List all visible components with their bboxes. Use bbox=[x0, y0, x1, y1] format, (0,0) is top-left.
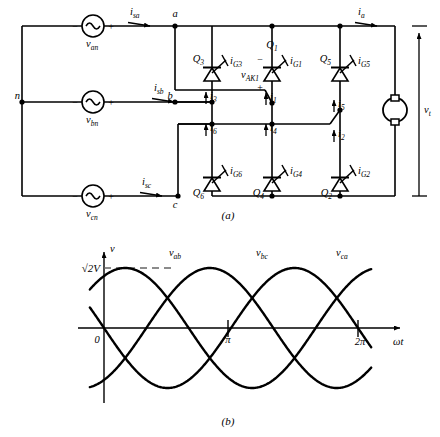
source-a-voltage-label: van bbox=[86, 38, 98, 52]
dot-node-b bbox=[172, 99, 177, 104]
dot-node-a bbox=[172, 23, 177, 28]
terminal-voltage-label: vt bbox=[424, 104, 432, 118]
panel-a-caption: (a) bbox=[222, 209, 235, 222]
thyristor-q6-gate-tick bbox=[222, 165, 228, 176]
dc-motor bbox=[383, 95, 407, 125]
dot-rail-top-right bbox=[337, 23, 342, 28]
thyristor-q6[interactable] bbox=[203, 165, 228, 191]
output-current-label-ia: ia bbox=[358, 6, 365, 20]
thyristor-q5[interactable] bbox=[331, 55, 356, 81]
source-a-plus: + bbox=[108, 21, 114, 32]
panel-b-caption: (b) bbox=[222, 415, 235, 428]
thyristor-q2-label: Q2 bbox=[321, 187, 333, 201]
dot-rail-top-mid bbox=[269, 23, 274, 28]
source-c-minus: − bbox=[72, 191, 78, 202]
gate-current-label-ig6: iG6 bbox=[230, 165, 242, 179]
gate-current-label-ig1: iG1 bbox=[290, 55, 302, 69]
thyristor-q4-triangle bbox=[264, 178, 280, 191]
thyristor-q1-gate-tick bbox=[282, 55, 288, 66]
figure-root: − + − + − + van vbn vcn isa bbox=[0, 0, 440, 437]
thyristor-q6-triangle bbox=[204, 178, 220, 191]
thyristor-q5-label: Q5 bbox=[320, 53, 332, 67]
source-wiring bbox=[22, 26, 212, 196]
figure-svg: − + − + − + van vbn vcn isa bbox=[0, 0, 440, 437]
thyristor-q2[interactable] bbox=[331, 165, 356, 191]
source-b-voltage-label: vbn bbox=[86, 114, 98, 128]
phase-c-feed bbox=[178, 110, 340, 196]
series-label-vca: vca bbox=[336, 247, 348, 261]
thyristor-q2-gate-tick bbox=[350, 165, 356, 176]
vak1-minus-sign: − bbox=[257, 54, 263, 65]
series-label-vab: vab bbox=[169, 247, 181, 261]
thyristor-q3-label: Q3 bbox=[193, 53, 205, 67]
thyristor-q1[interactable] bbox=[263, 55, 288, 81]
origin-label: 0 bbox=[94, 334, 100, 345]
panel-a-circuit: − + − + − + van vbn vcn isa bbox=[15, 6, 432, 222]
thyristor-q3-gate-tick bbox=[222, 55, 228, 66]
thyristor-q5-triangle bbox=[332, 68, 348, 81]
current-label-isa: isa bbox=[130, 6, 140, 20]
dot-neutral bbox=[19, 99, 24, 104]
dot-rail-bot-mid bbox=[269, 193, 274, 198]
gate-current-label-ig3: iG3 bbox=[230, 55, 242, 69]
thyristor-q1-triangle bbox=[264, 68, 280, 81]
dc-motor-bottom-terminal bbox=[391, 119, 399, 125]
gate-current-label-ig2: iG2 bbox=[358, 165, 370, 179]
thyristor-q5-gate-tick bbox=[350, 55, 356, 66]
thyristor-q4[interactable] bbox=[263, 165, 288, 191]
branch-label-i2: i2 bbox=[338, 128, 345, 142]
source-a-minus: − bbox=[72, 21, 78, 32]
thyristor-q6-label: Q6 bbox=[193, 187, 205, 201]
source-current-labels: isa isb isc bbox=[130, 6, 164, 190]
source-b-minus: − bbox=[72, 97, 78, 108]
source-c-voltage-label: vcn bbox=[86, 208, 98, 222]
wt-axis-label: ωt bbox=[393, 336, 404, 347]
source-current-arrows bbox=[128, 23, 174, 197]
peak-value-label: √2V bbox=[82, 262, 102, 274]
dc-motor-top-terminal bbox=[391, 95, 399, 101]
vak1-plus-sign: + bbox=[257, 82, 263, 93]
node-label-a: a bbox=[172, 8, 177, 19]
source-c-plus: + bbox=[108, 191, 114, 202]
node-label-c: c bbox=[173, 199, 178, 210]
gate-current-label-ig4: iG4 bbox=[290, 165, 302, 179]
waveform-axes bbox=[78, 252, 400, 403]
branch-current-labels: i3 i1 i5 i6 i4 i2 bbox=[210, 90, 345, 142]
source-b-plus: + bbox=[108, 97, 114, 108]
current-label-isb: isb bbox=[154, 82, 164, 96]
dot-node-c bbox=[175, 193, 180, 198]
panel-b-waveforms: v ωt 0 √2V π 2π vab vbc vca (b) bbox=[78, 243, 404, 428]
current-label-isc: isc bbox=[142, 176, 152, 190]
node-label-n: n bbox=[15, 90, 20, 101]
series-label-vbc: vbc bbox=[256, 247, 268, 261]
thyristor-q4-label: Q4 bbox=[253, 187, 265, 201]
thyristor-q2-triangle bbox=[332, 178, 348, 191]
v-axis-label: v bbox=[110, 243, 115, 254]
thyristor-q3-triangle bbox=[204, 68, 220, 81]
thyristor-q4-gate-tick bbox=[282, 165, 288, 176]
dot-rail-bot-right bbox=[337, 193, 342, 198]
thyristor-q3[interactable] bbox=[203, 55, 228, 81]
vak1-label: vAK1 bbox=[241, 69, 259, 83]
node-label-b: b bbox=[167, 90, 172, 101]
gate-current-label-ig5: iG5 bbox=[358, 55, 370, 69]
